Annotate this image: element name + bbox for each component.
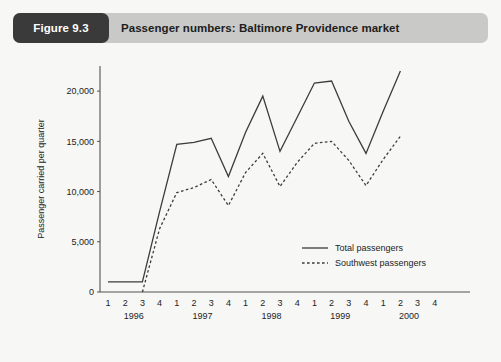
series-line-southwest-passengers — [142, 136, 400, 292]
chart-legend: Total passengersSouthwest passengers — [302, 243, 427, 268]
x-tick-label: 2 — [398, 298, 403, 308]
x-year-label: 1996 — [124, 311, 144, 321]
x-tick-label: 4 — [363, 298, 368, 308]
x-year-label: 2000 — [399, 311, 419, 321]
x-year-label: 1999 — [330, 311, 350, 321]
chart-container: 05,00010,00015,00020,000 123412341234123… — [14, 52, 486, 348]
x-tick-label: 3 — [140, 298, 145, 308]
x-tick-label: 3 — [277, 298, 282, 308]
x-tick-label: 1 — [381, 298, 386, 308]
figure-title: Passenger numbers: Baltimore Providence … — [121, 13, 399, 43]
x-tick-label: 4 — [295, 298, 300, 308]
y-axis-title: Passenger carried per quarter — [36, 119, 46, 239]
x-tick-label: 4 — [157, 298, 162, 308]
y-tick-labels: 05,00010,00015,00020,000 — [66, 86, 100, 297]
x-tick-label: 2 — [191, 298, 196, 308]
x-tick-label: 1 — [105, 298, 110, 308]
x-tick-label: 3 — [415, 298, 420, 308]
x-tick-label: 2 — [123, 298, 128, 308]
legend-label-2: Southwest passengers — [335, 258, 427, 268]
line-chart: 05,00010,00015,00020,000 123412341234123… — [14, 52, 486, 348]
x-year-label: 1997 — [193, 311, 213, 321]
x-tick-labels: 12341234123412341234 — [105, 298, 437, 308]
x-tick-label: 1 — [243, 298, 248, 308]
figure-page: Figure 9.3 Passenger numbers: Baltimore … — [0, 0, 501, 362]
y-tick-label: 20,000 — [66, 86, 94, 96]
legend-label-1: Total passengers — [335, 243, 404, 253]
y-tick-label: 0 — [89, 287, 94, 297]
x-tick-label: 4 — [226, 298, 231, 308]
y-tick-label: 5,000 — [71, 237, 94, 247]
x-tick-label: 4 — [432, 298, 437, 308]
x-tick-label: 1 — [174, 298, 179, 308]
x-year-labels: 19961997199819992000 — [124, 311, 419, 321]
y-tick-label: 15,000 — [66, 137, 94, 147]
x-year-label: 1998 — [261, 311, 281, 321]
figure-number-badge: Figure 9.3 — [13, 13, 109, 43]
x-tick-label: 2 — [329, 298, 334, 308]
y-tick-label: 10,000 — [66, 187, 94, 197]
x-tick-label: 2 — [260, 298, 265, 308]
x-tick-label: 1 — [312, 298, 317, 308]
x-tick-label: 3 — [209, 298, 214, 308]
x-tick-label: 3 — [346, 298, 351, 308]
